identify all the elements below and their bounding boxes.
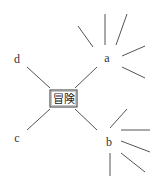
connector-center-c <box>27 109 50 130</box>
rays-a <box>78 14 145 78</box>
connector-center-d <box>27 67 50 88</box>
ray-a-1 <box>78 26 93 47</box>
node-d-label: d <box>14 52 20 66</box>
ray-b-4 <box>121 153 145 172</box>
mind-map-diagram: 冒険 a b c d <box>0 0 159 184</box>
center-node: 冒険 <box>50 90 77 107</box>
ray-a-3 <box>116 14 127 45</box>
center-label: 冒険 <box>53 93 75 106</box>
node-b-label: b <box>106 135 112 149</box>
ray-a-4 <box>122 46 145 56</box>
connector-center-b <box>75 109 97 130</box>
ray-b-1 <box>110 109 127 128</box>
connector-center-a <box>75 67 97 88</box>
node-a-label: a <box>104 51 110 65</box>
ray-a-5 <box>122 67 145 78</box>
ray-b-3 <box>121 141 150 152</box>
node-c-label: c <box>14 131 19 145</box>
rays-b <box>110 109 150 176</box>
